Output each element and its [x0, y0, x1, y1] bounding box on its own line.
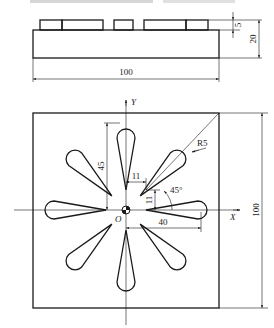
origin-symbol: [122, 206, 130, 214]
origin-label: O: [115, 214, 122, 224]
boss-2: [62, 20, 103, 30]
dim-plate-height-label: 100: [251, 203, 261, 217]
dim-boss-height-label: 5: [233, 22, 243, 27]
boss-5: [186, 20, 208, 30]
boss-4: [144, 20, 186, 30]
dim-radius-label: R5: [197, 138, 208, 148]
petal-135deg: [62, 146, 118, 202]
boss-3: [114, 20, 133, 30]
base-plate-outline: [33, 30, 219, 58]
x-axis-label: X: [229, 212, 236, 222]
dim-width-label: 100: [119, 67, 133, 77]
dim-offset-x-label: 11: [132, 171, 141, 181]
dim-offset-y-label: 11: [144, 196, 154, 205]
y-axis-label: Y: [131, 97, 137, 107]
dim-petal-length-label: 45: [96, 161, 106, 171]
dim-total-height-label: 20: [248, 34, 258, 44]
plan-view: Y X O 45: [14, 97, 268, 325]
boss-1: [40, 20, 62, 30]
front-view: 100 5 20: [33, 12, 262, 82]
dim-radial-label: 40: [159, 217, 169, 227]
dim-angle-label: 45°: [170, 185, 183, 195]
petal-225deg: [62, 218, 118, 274]
petal-centerline-45: [146, 113, 219, 190]
technical-drawing: 100 5 20 Y X O: [0, 0, 274, 328]
